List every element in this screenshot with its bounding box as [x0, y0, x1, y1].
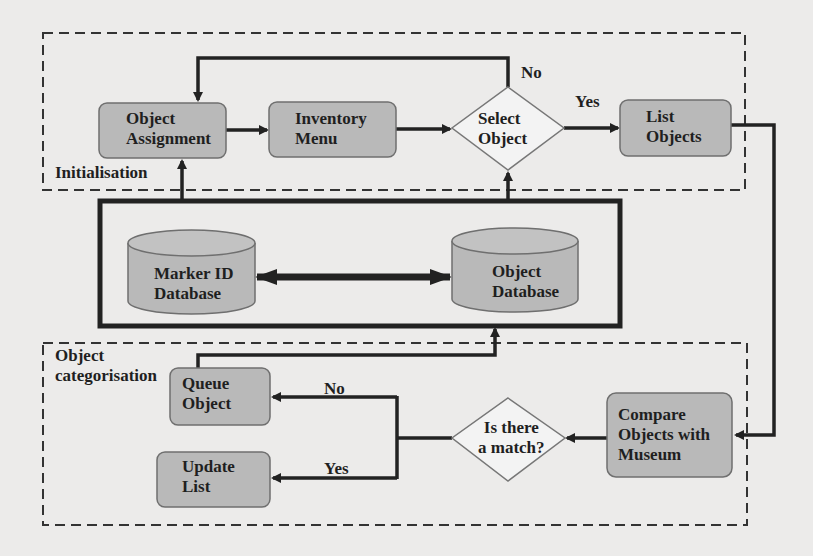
- marker-id-database-label: Marker ID Database: [154, 264, 233, 304]
- select-yes-label: Yes: [575, 92, 600, 112]
- initialisation-label: Initialisation: [55, 163, 148, 183]
- match-no-label: No: [324, 379, 345, 399]
- select-no-label: No: [521, 63, 542, 83]
- list-objects-label: List Objects: [646, 107, 702, 147]
- match-yes-label: Yes: [324, 459, 349, 479]
- edge-queue-to-db: [198, 329, 495, 368]
- select-object-label: Select Object: [478, 109, 527, 149]
- update-list-label: Update List: [182, 457, 235, 497]
- queue-object-label: Queue Object: [182, 374, 231, 414]
- is-match-label: Is there a match?: [478, 418, 545, 458]
- compare-objects-label: Compare Objects with Museum: [618, 405, 710, 465]
- object-assignment-label: Object Assignment: [126, 109, 211, 149]
- edge-select-no: [198, 58, 508, 100]
- edge-list-to-compare: [731, 125, 774, 435]
- categorisation-label: Object categorisation: [55, 346, 157, 386]
- inventory-menu-label: Inventory Menu: [295, 109, 367, 149]
- object-database-label: Object Database: [492, 262, 559, 302]
- flowchart-diagram: [0, 0, 813, 556]
